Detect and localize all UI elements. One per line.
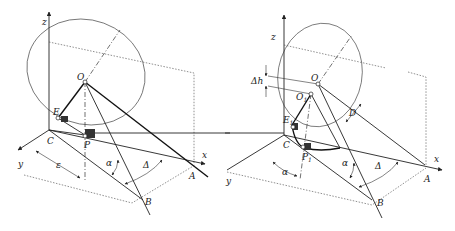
- vertical-plane: [49, 42, 194, 163]
- wheel-axis-right: [318, 35, 352, 84]
- label-O-right: O: [311, 73, 319, 83]
- label-P: P: [83, 140, 91, 150]
- alpha-arc: [112, 160, 118, 175]
- label-A-right: A: [423, 174, 431, 184]
- label-C: C: [47, 136, 54, 146]
- alpha-arc-right-2: [350, 163, 354, 178]
- label-O1: O1: [296, 92, 307, 103]
- label-x-right: x: [434, 154, 439, 164]
- y-axis: [18, 130, 49, 150]
- label-alpha: α: [106, 158, 112, 168]
- label-E: E: [52, 107, 60, 117]
- segment-OE: [58, 82, 85, 118]
- segment-OB: [85, 82, 150, 215]
- right-angle-E: [61, 116, 68, 122]
- y-axis-right: [227, 135, 284, 170]
- label-z: z: [41, 17, 47, 27]
- label-epsilon: ε: [56, 160, 61, 170]
- label-alpha-right-1: α: [282, 167, 288, 177]
- label-E1: E1: [282, 115, 293, 126]
- diagram: z y x O E C P A B α Δ ε: [0, 0, 455, 231]
- label-A: A: [188, 171, 196, 181]
- label-P1: P1: [301, 152, 312, 163]
- plane-top-right: [284, 45, 386, 68]
- label-alpha-right-2: α: [342, 158, 348, 168]
- segment-OA-right: [318, 84, 425, 165]
- label-B-right: B: [376, 198, 384, 208]
- dh-line-bottom: [268, 86, 311, 94]
- plane-side-right: [408, 72, 426, 166]
- geometry-svg: z y x O E C P A B α Δ ε: [0, 0, 455, 231]
- label-C-right: C: [283, 140, 290, 150]
- label-y-right: y: [225, 176, 232, 186]
- right-figure: z y x O O1 E1 C P1 A B α α Δ D Δh: [225, 15, 442, 218]
- dashdot-right: [300, 94, 311, 180]
- label-z-right: z: [270, 32, 276, 42]
- label-delta: Δ: [142, 160, 150, 170]
- label-delta-right: Δ: [374, 161, 382, 171]
- ground-plane-right: [227, 168, 426, 205]
- wheel-circle: [12, 3, 160, 142]
- left-figure: z y x O E C P A B α Δ ε: [12, 3, 230, 215]
- ground-plane: [24, 165, 195, 203]
- label-B: B: [144, 197, 152, 207]
- label-O: O: [77, 72, 85, 82]
- label-y: y: [17, 159, 24, 169]
- label-D: D: [348, 108, 356, 118]
- label-delta-h: Δh: [250, 76, 263, 86]
- label-x: x: [202, 150, 207, 160]
- segment-OB-right: [318, 84, 382, 218]
